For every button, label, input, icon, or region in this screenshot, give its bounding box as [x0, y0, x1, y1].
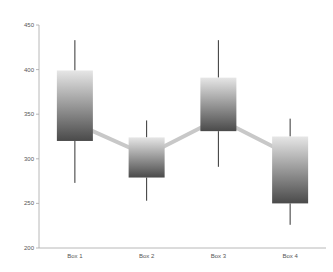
mean-line: [75, 119, 290, 156]
box-4: [272, 119, 308, 225]
x-tick-label: Box 1: [67, 253, 83, 259]
box-2: [129, 120, 165, 200]
y-tick-label: 250: [24, 200, 35, 206]
x-axis-labels: Box 1Box 2Box 3Box 4: [67, 253, 298, 259]
y-tick-label: 200: [24, 245, 35, 251]
box-body: [129, 137, 165, 177]
y-tick-label: 450: [24, 22, 35, 28]
box-3: [200, 40, 236, 167]
y-axis: 200250300350400450: [24, 22, 39, 251]
box-1: [57, 40, 93, 183]
box-body: [200, 78, 236, 132]
box-body: [57, 70, 93, 140]
x-tick-label: Box 4: [282, 253, 298, 259]
box-body: [272, 137, 308, 204]
x-tick-label: Box 2: [139, 253, 155, 259]
box-plot-chart: 200250300350400450 Box 1Box 2Box 3Box 4: [0, 0, 333, 272]
y-tick-label: 400: [24, 67, 35, 73]
y-tick-label: 350: [24, 111, 35, 117]
y-tick-label: 300: [24, 156, 35, 162]
x-tick-label: Box 3: [211, 253, 227, 259]
